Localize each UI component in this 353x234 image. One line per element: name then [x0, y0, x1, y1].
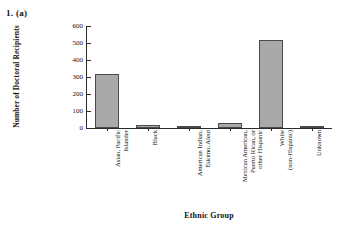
x-category-label: Unknown	[315, 130, 323, 156]
y-tick-label: 300	[57, 73, 83, 81]
x-axis-category-labels: Asian, PacificIslanderBlackAmerican Indi…	[86, 130, 332, 206]
x-category-label: Asian, PacificIslander	[114, 130, 129, 167]
y-tick-mark	[87, 128, 91, 129]
x-category-label-line: other Hispanic	[256, 130, 264, 182]
y-tick-label: 600	[57, 22, 83, 30]
x-category-label-line: Unknown	[315, 130, 323, 156]
x-category-label-line: Mexican American,	[241, 130, 249, 182]
x-category-label-line: Puerto Rican, or	[248, 130, 256, 182]
x-category-label-line: Eskimo, Aleut	[204, 130, 212, 176]
bar	[218, 123, 242, 128]
figure-container: 1. (a) Number of Doctoral Recipients 010…	[0, 0, 353, 234]
y-tick-label: 400	[57, 56, 83, 64]
bar	[95, 74, 119, 128]
bars-layer	[86, 26, 332, 128]
y-tick-label: 200	[57, 90, 83, 98]
bar	[136, 125, 160, 128]
x-category-label: American Indian,Eskimo, Aleut	[196, 130, 211, 176]
x-category-label-line: White	[278, 130, 286, 170]
bar	[300, 126, 324, 128]
x-category-label: Mexican American,Puerto Rican, orother H…	[241, 130, 264, 182]
x-category-label-line: Islander	[122, 130, 130, 167]
x-category-label-line: American Indian,	[196, 130, 204, 176]
x-category-label: White(non-Hispanic)	[278, 130, 293, 170]
x-axis-line	[86, 128, 332, 129]
bar	[259, 40, 283, 128]
y-tick-label: 500	[57, 39, 83, 47]
y-axis-title: Number of Doctoral Recipients	[12, 17, 21, 137]
x-category-label: Black	[151, 130, 159, 145]
x-category-label-line: Asian, Pacific	[114, 130, 122, 167]
bar	[177, 126, 201, 128]
x-axis-title: Ethnic Group	[86, 211, 332, 220]
y-tick-label: 100	[57, 107, 83, 115]
x-category-label-line: Black	[151, 130, 159, 145]
y-tick-label: 0	[57, 124, 83, 132]
x-category-label-line: (non-Hispanic)	[286, 130, 294, 170]
plot-area: 0100200300400500600	[86, 26, 332, 128]
